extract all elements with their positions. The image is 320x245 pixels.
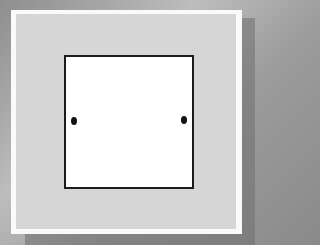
screw-hole-right-icon <box>181 116 187 124</box>
screw-hole-left-icon <box>71 117 77 125</box>
square-opening <box>64 55 194 189</box>
